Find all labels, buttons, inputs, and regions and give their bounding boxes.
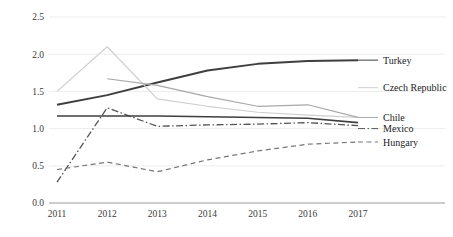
series-label-hungary: Hungary (383, 137, 418, 148)
series-line (57, 60, 358, 105)
series-label-turkey: Turkey (383, 55, 412, 66)
x-tick-label: 2011 (48, 209, 67, 219)
series-line (57, 47, 358, 118)
x-tick-label: 2014 (198, 209, 217, 219)
series-line (57, 142, 358, 172)
y-tick-label: 2.5 (32, 12, 44, 22)
series-label-chile: Chile (383, 112, 405, 123)
x-tick-label: 2012 (98, 209, 117, 219)
y-tick-label: 1.5 (32, 87, 44, 97)
series-line (107, 79, 358, 118)
series-leader-lines (358, 60, 378, 142)
x-tick-label: 2013 (148, 209, 167, 219)
x-tick-label: 2016 (298, 209, 317, 219)
y-tick-label: 1.0 (32, 124, 44, 134)
series-label-mexico: Mexico (383, 123, 414, 134)
series-label-czech-republic: Czech Republic (383, 82, 447, 93)
chart-canvas: 0.00.51.01.52.02.5 201120122013201420152… (0, 0, 453, 237)
x-tick-label: 2017 (349, 209, 368, 219)
y-axis-ticks: 0.00.51.01.52.02.5 (32, 12, 44, 208)
x-axis-ticks: 2011201220132014201520162017 (48, 209, 368, 219)
y-tick-label: 0.5 (32, 161, 44, 171)
y-tick-label: 0.0 (32, 198, 44, 208)
series-lines (57, 47, 358, 182)
y-tick-label: 2.0 (32, 50, 44, 60)
series-labels: TurkeyCzech RepublicChileMexicoHungary (383, 55, 447, 148)
line-chart: 0.00.51.01.52.02.5 201120122013201420152… (0, 0, 453, 237)
x-tick-label: 2015 (248, 209, 267, 219)
series-line (57, 116, 358, 123)
